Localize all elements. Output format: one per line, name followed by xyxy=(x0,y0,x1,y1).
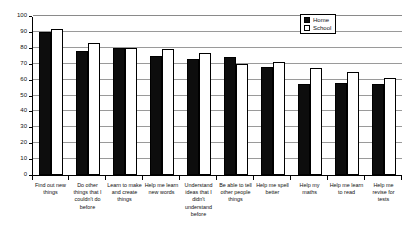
x-tick-mark xyxy=(180,176,217,180)
legend-label-home: Home xyxy=(313,17,329,23)
x-axis-label: Find out new things xyxy=(32,182,69,234)
bar-home xyxy=(113,48,125,175)
bar-school xyxy=(310,68,322,175)
x-axis-label: Help me revise for tests xyxy=(365,182,402,234)
bar-home xyxy=(298,84,310,175)
y-tick-label: 90 xyxy=(20,28,27,34)
bar-home xyxy=(150,56,162,175)
x-tick-mark xyxy=(365,176,402,180)
y-tick-label: 70 xyxy=(20,60,27,66)
bar-group xyxy=(328,17,365,175)
x-tick-mark xyxy=(217,176,254,180)
y-tick-label: 30 xyxy=(20,123,27,129)
y-tick-label: 50 xyxy=(20,92,27,98)
x-tick-mark xyxy=(254,176,291,180)
bar-home xyxy=(39,32,51,175)
x-axis-ticks xyxy=(32,176,402,180)
bar-school xyxy=(384,78,396,175)
bar-school xyxy=(347,72,359,175)
bar-group xyxy=(33,17,70,175)
bar-group xyxy=(218,17,255,175)
y-tick-label: 10 xyxy=(20,155,27,161)
bar-home xyxy=(261,67,273,175)
y-tick-label: 40 xyxy=(20,107,27,113)
y-tick-label: 100 xyxy=(17,12,27,18)
y-tick-label: 60 xyxy=(20,76,27,82)
x-axis-label: Be able to tell other people things xyxy=(217,182,254,234)
y-tick-label: 80 xyxy=(20,44,27,50)
bar-group xyxy=(291,17,328,175)
x-tick-mark xyxy=(328,176,365,180)
x-tick-mark xyxy=(106,176,143,180)
bar-group xyxy=(70,17,107,175)
bar-school xyxy=(236,64,248,175)
bars-layer xyxy=(33,17,402,175)
plot-area xyxy=(32,17,402,176)
x-axis-labels: Find out new thingsDo other things that … xyxy=(32,182,402,234)
chart-legend: Home School xyxy=(300,14,336,34)
bar-home xyxy=(187,59,199,175)
bar-school xyxy=(125,48,137,175)
bar-school xyxy=(199,53,211,175)
bar-home xyxy=(76,51,88,175)
bar-group xyxy=(254,17,291,175)
legend-item-home: Home xyxy=(304,17,331,23)
x-axis-label: Help my maths xyxy=(291,182,328,234)
bar-school xyxy=(88,43,100,175)
x-axis-label: Help me learn to read xyxy=(328,182,365,234)
x-axis-label: Help me spell better xyxy=(254,182,291,234)
bar-group xyxy=(107,17,144,175)
bar-group xyxy=(181,17,218,175)
bar-school xyxy=(162,49,174,175)
legend-label-school: School xyxy=(313,25,331,31)
y-tick-label: 20 xyxy=(20,139,27,145)
bar-group xyxy=(144,17,181,175)
gridline xyxy=(33,15,402,16)
bar-home xyxy=(224,57,236,175)
legend-item-school: School xyxy=(304,25,331,31)
bar-home xyxy=(372,84,384,175)
bar-chart: 0102030405060708090100 Find out new thin… xyxy=(0,0,410,235)
y-tick-label: 0 xyxy=(24,171,27,177)
x-tick-mark xyxy=(32,176,69,180)
x-axis-label: Understand ideas that I didn't understan… xyxy=(180,182,217,234)
x-tick-mark xyxy=(291,176,328,180)
legend-swatch-school-icon xyxy=(304,25,310,31)
x-tick-mark xyxy=(69,176,106,180)
y-axis: 0102030405060708090100 xyxy=(0,17,32,176)
x-axis-label: Do other things that I couldn't do befor… xyxy=(69,182,106,234)
x-axis-label: Learn to make and create things xyxy=(106,182,143,234)
x-axis-label: Help me learn new words xyxy=(143,182,180,234)
legend-swatch-home-icon xyxy=(304,17,310,23)
bar-school xyxy=(273,62,285,175)
bar-group xyxy=(365,17,402,175)
bar-home xyxy=(335,83,347,175)
x-tick-mark xyxy=(143,176,180,180)
bar-school xyxy=(51,29,63,175)
